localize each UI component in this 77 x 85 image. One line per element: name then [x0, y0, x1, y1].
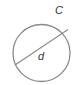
circumference-label: C: [55, 4, 63, 16]
diameter-label: d: [38, 50, 45, 62]
circle-diagram: C d: [0, 0, 77, 85]
